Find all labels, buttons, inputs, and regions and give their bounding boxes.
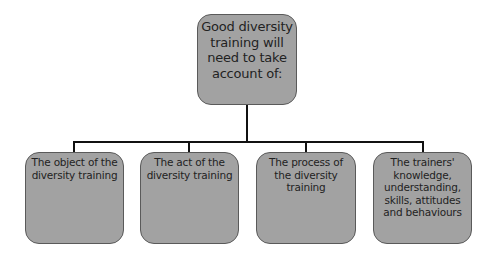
child-node-process: The process of the diversity training	[256, 152, 356, 244]
child-node-act: The act of the diversity training	[140, 152, 239, 244]
root-node: Good diversity training will need to tak…	[197, 14, 297, 105]
child-node-label: The trainers' knowledge, understanding, …	[378, 156, 467, 219]
child-node-label: The object of the diversity training	[30, 156, 119, 181]
child-node-label: The process of the diversity training	[261, 156, 351, 194]
child-node-label: The act of the diversity training	[145, 156, 234, 181]
connector-trunk	[246, 104, 248, 142]
child-node-trainers: The trainers' knowledge, understanding, …	[373, 152, 472, 244]
child-node-object: The object of the diversity training	[25, 152, 124, 244]
root-node-label: Good diversity training will need to tak…	[201, 19, 293, 81]
connector-horizontal-bar	[73, 141, 424, 143]
